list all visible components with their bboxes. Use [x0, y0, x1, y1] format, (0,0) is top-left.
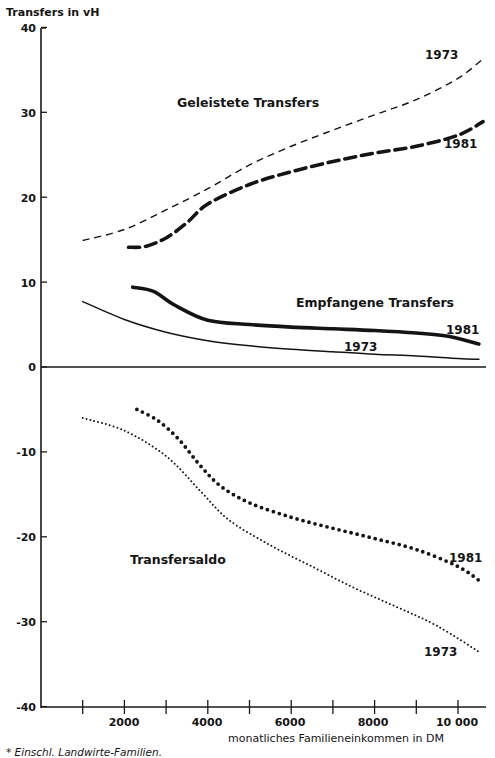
x-tick-label: 6000 — [265, 716, 315, 729]
y-axis-title: Transfers in vH — [6, 6, 99, 19]
x-tick-label: 8000 — [348, 716, 398, 729]
y-tick-label: 40 — [4, 22, 36, 35]
annotation-empfangene-1973: 1973 — [344, 340, 377, 354]
x-axis-title: monatliches Familieneinkommen in DM — [228, 732, 444, 745]
label-transfersaldo: Transfersaldo — [130, 552, 226, 567]
x-tick-label: 2000 — [99, 716, 149, 729]
annotation-geleistete-1973: 1973 — [425, 48, 458, 62]
annotation-geleistete-1981: 1981 — [444, 137, 477, 151]
series-transfersaldo-1973 — [83, 418, 481, 653]
y-tick-label: -20 — [4, 531, 36, 544]
axes — [41, 28, 486, 708]
label-empfangene-transfers: Empfangene Transfers — [296, 295, 454, 310]
y-ticks — [41, 27, 47, 706]
x-tick-label: 4000 — [182, 716, 232, 729]
y-tick-label: 0 — [4, 361, 36, 374]
footnote: * Einschl. Landwirte-Familien. — [6, 746, 162, 758]
y-tick-label: 10 — [4, 277, 36, 290]
y-tick-label: -40 — [4, 701, 36, 714]
y-tick-label: -30 — [4, 616, 36, 629]
series-geleistete-transfers-1973 — [83, 59, 483, 241]
y-tick-label: 30 — [4, 107, 36, 120]
annotation-saldo-1973: 1973 — [424, 645, 457, 659]
chart-canvas — [0, 0, 495, 758]
annotation-empfangene-1981: 1981 — [446, 323, 479, 337]
series-empfangene-transfers-1973 — [83, 302, 479, 360]
label-geleistete-transfers: Geleistete Transfers — [177, 95, 319, 110]
x-tick-label: 10 000 — [432, 716, 482, 729]
annotation-saldo-1981: 1981 — [449, 551, 482, 565]
y-tick-label: -10 — [4, 446, 36, 459]
y-tick-label: 20 — [4, 192, 36, 205]
